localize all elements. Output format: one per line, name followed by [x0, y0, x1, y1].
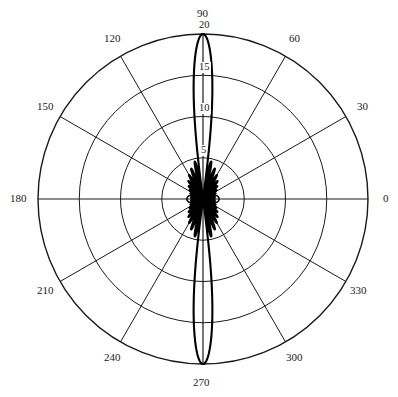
angle-label-90: 90: [197, 8, 208, 19]
grid-spoke-330: [203, 199, 346, 282]
angle-label-240: 240: [104, 352, 121, 363]
grid-spoke-210: [60, 199, 203, 282]
radial-label-15: 15: [198, 62, 211, 73]
radial-label-5: 5: [200, 145, 207, 156]
grid-spoke-150: [60, 117, 203, 200]
radial-label-20: 20: [198, 20, 211, 31]
angle-label-120: 120: [104, 33, 121, 44]
radial-label-10: 10: [198, 103, 211, 114]
polar-chart: 0306090120150180210240270300330 2015105: [0, 0, 398, 397]
angle-label-30: 30: [357, 101, 368, 112]
angle-label-60: 60: [289, 33, 300, 44]
angle-label-330: 330: [350, 285, 367, 296]
angle-label-150: 150: [37, 101, 54, 112]
angle-label-0: 0: [383, 193, 389, 204]
polar-plot-canvas: [0, 0, 398, 397]
angle-label-270: 270: [193, 377, 210, 388]
grid-spoke-30: [203, 117, 346, 200]
angle-label-300: 300: [286, 352, 303, 363]
angle-label-180: 180: [10, 193, 27, 204]
angle-label-210: 210: [37, 285, 54, 296]
